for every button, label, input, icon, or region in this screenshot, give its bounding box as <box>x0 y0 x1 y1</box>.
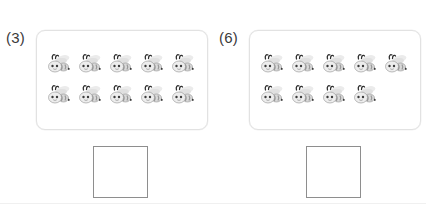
counting-worksheet: (3) (6) <box>0 0 426 210</box>
bee-icon <box>382 52 407 76</box>
problem-2-number-label: (6) <box>219 29 238 47</box>
problem-1-bee-panel <box>36 30 208 130</box>
bee-icon <box>45 83 70 107</box>
bee-icon <box>107 52 132 76</box>
bee-icon <box>138 52 163 76</box>
bee-icon <box>169 52 194 76</box>
bee-icon <box>258 83 283 107</box>
problem-1-answer-box[interactable] <box>93 146 148 198</box>
problem-1: (3) <box>0 0 213 210</box>
bee-icon <box>289 83 314 107</box>
page-baseline-rule <box>0 203 426 204</box>
problem-1-bee-rows <box>37 31 207 129</box>
problem-2-answer-box[interactable] <box>306 146 361 198</box>
problem-2-bee-panel <box>249 30 421 130</box>
problem-2-bee-row-1 <box>258 52 412 76</box>
problem-2: (6) <box>213 0 426 210</box>
problem-2-bee-row-2 <box>258 83 412 107</box>
problem-1-bee-row-1 <box>45 52 199 76</box>
bee-icon <box>76 83 101 107</box>
bee-icon <box>138 83 163 107</box>
problem-1-number-label: (3) <box>6 29 25 47</box>
bee-icon <box>320 83 345 107</box>
bee-icon <box>289 52 314 76</box>
bee-icon <box>76 52 101 76</box>
problem-2-bee-rows <box>250 31 420 129</box>
bee-icon <box>45 52 70 76</box>
bee-icon <box>351 52 376 76</box>
bee-icon <box>169 83 194 107</box>
bee-icon <box>258 52 283 76</box>
bee-icon <box>351 83 376 107</box>
bee-icon <box>320 52 345 76</box>
bee-icon <box>107 83 132 107</box>
problem-1-bee-row-2 <box>45 83 199 107</box>
